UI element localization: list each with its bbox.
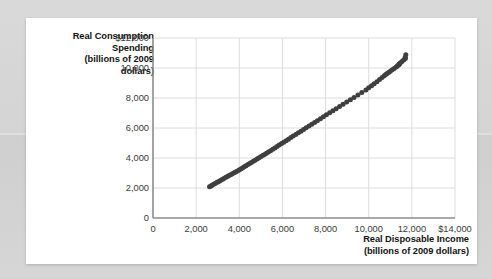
- y-tick-label: 4,000: [79, 153, 149, 163]
- y-tick-label: 2,000: [79, 183, 149, 193]
- y-tick-label: 6,000: [79, 123, 149, 133]
- y-tick-label: 8,000: [79, 93, 149, 103]
- y-tick-label: 0: [79, 213, 149, 223]
- y-tick-label: 10,000: [79, 63, 149, 73]
- figure-root: Real Consumption Spending (billions of 2…: [0, 0, 492, 279]
- y-tick-label: $12,000: [79, 33, 149, 43]
- scatter-plot: 02,0004,0006,0008,00010,000$12,00002,000…: [26, 18, 477, 264]
- data-point: [403, 52, 408, 57]
- x-tick-label: $14,000: [420, 224, 490, 234]
- figure-card: Real Consumption Spending (billions of 2…: [26, 18, 477, 264]
